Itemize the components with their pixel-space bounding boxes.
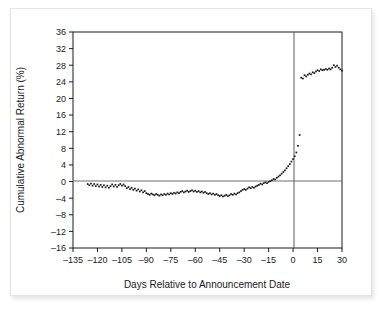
data-point xyxy=(292,158,294,160)
data-point xyxy=(147,193,149,195)
data-point xyxy=(287,165,289,167)
data-point xyxy=(144,190,146,192)
data-point xyxy=(238,191,240,193)
data-point xyxy=(289,163,291,165)
data-point xyxy=(196,191,198,193)
data-point xyxy=(93,183,95,185)
data-point xyxy=(118,184,120,186)
data-point xyxy=(90,183,92,185)
data-point xyxy=(309,73,311,75)
data-point xyxy=(214,194,216,196)
data-point xyxy=(273,178,275,180)
data-point xyxy=(105,187,107,189)
data-point xyxy=(134,188,136,190)
x-tick-label: –45 xyxy=(212,255,227,265)
data-point xyxy=(162,194,164,196)
data-point xyxy=(279,174,281,176)
data-point xyxy=(204,191,206,193)
data-point xyxy=(108,187,110,189)
y-tick-label: 4 xyxy=(61,160,66,170)
data-point xyxy=(100,184,102,186)
data-point xyxy=(126,187,128,189)
data-point xyxy=(261,184,263,186)
data-point xyxy=(203,192,205,194)
data-point xyxy=(128,186,130,188)
data-point xyxy=(322,69,324,71)
data-point xyxy=(320,69,322,71)
x-axis-ticks xyxy=(73,248,342,252)
data-point xyxy=(269,180,271,182)
x-tick-label: –60 xyxy=(188,255,203,265)
data-point xyxy=(282,171,284,173)
data-point xyxy=(235,194,237,196)
x-tick-label: 30 xyxy=(337,255,347,265)
data-point xyxy=(103,184,105,186)
y-tick-label: 0 xyxy=(61,177,66,187)
data-point xyxy=(168,194,170,196)
data-point xyxy=(328,68,330,70)
data-point xyxy=(137,189,139,191)
data-point xyxy=(232,194,234,196)
data-point xyxy=(268,181,270,183)
data-point xyxy=(224,195,226,197)
data-point xyxy=(296,152,298,154)
x-tick-label: –135 xyxy=(63,255,83,265)
data-point xyxy=(207,193,209,195)
data-point xyxy=(188,191,190,193)
data-point xyxy=(248,187,250,189)
data-point xyxy=(176,191,178,193)
y-tick-label: 16 xyxy=(56,110,66,120)
data-point xyxy=(209,192,211,194)
data-point xyxy=(307,74,309,76)
data-point xyxy=(113,186,115,188)
y-tick-label: 36 xyxy=(56,27,66,37)
data-point xyxy=(142,191,144,193)
y-tick-label: –12 xyxy=(51,227,66,237)
data-point xyxy=(338,67,340,69)
data-point xyxy=(163,193,165,195)
data-point xyxy=(229,194,231,196)
data-point xyxy=(170,192,172,194)
data-point xyxy=(183,191,185,193)
y-tick-label: –16 xyxy=(51,243,66,253)
data-point xyxy=(243,188,245,190)
data-point xyxy=(304,74,306,76)
data-point xyxy=(227,195,229,197)
data-point xyxy=(201,191,203,193)
data-point xyxy=(253,187,255,189)
data-point xyxy=(276,177,278,179)
data-point xyxy=(217,194,219,196)
data-point xyxy=(245,189,247,191)
data-point xyxy=(136,190,138,192)
data-point xyxy=(286,167,288,169)
data-point xyxy=(155,193,157,195)
data-point xyxy=(139,191,141,193)
data-point xyxy=(242,189,244,191)
data-point xyxy=(263,182,265,184)
data-point xyxy=(173,192,175,194)
y-tick-label: 28 xyxy=(56,61,66,71)
x-tick-label: –15 xyxy=(261,255,276,265)
data-point xyxy=(116,186,118,188)
data-point xyxy=(149,194,151,196)
data-point xyxy=(92,185,94,187)
data-point xyxy=(240,190,242,192)
data-point xyxy=(185,191,187,193)
data-point xyxy=(265,182,267,184)
data-point xyxy=(318,70,320,72)
data-point xyxy=(206,192,208,194)
data-point xyxy=(330,69,332,71)
data-point xyxy=(87,183,89,185)
y-axis-title: Cumulative Abnormal Return (%) xyxy=(15,67,26,213)
data-point xyxy=(211,194,213,196)
data-point xyxy=(256,185,258,187)
cumulative-abnormal-return-chart: –135–120–105–90–75–60–45–30–1501530 –16–… xyxy=(0,0,385,310)
y-tick-label: –8 xyxy=(56,210,66,220)
y-tick-label: 20 xyxy=(56,94,66,104)
data-point xyxy=(115,184,117,186)
data-point xyxy=(121,185,123,187)
data-point xyxy=(312,71,314,73)
data-point xyxy=(129,188,131,190)
y-tick-label: –4 xyxy=(56,194,66,204)
data-point xyxy=(278,176,280,178)
